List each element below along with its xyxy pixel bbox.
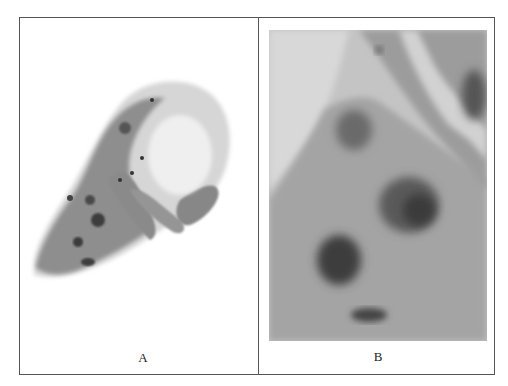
panel-divider (258, 17, 259, 375)
panel-a-image (30, 70, 235, 290)
panel-a-label: A (128, 350, 158, 366)
panel-b-image (269, 30, 487, 341)
panel-b-label: B (363, 349, 393, 365)
